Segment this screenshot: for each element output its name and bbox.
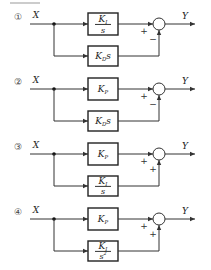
top-block: KIs: [88, 13, 118, 35]
block-diagram-options: ①XKIsKDsY+−②XKPKDsY+−③XKPKIsY++④XKPKIs2Y…: [0, 0, 211, 270]
input-label-x: X: [32, 75, 40, 85]
top-input-sign: +: [140, 26, 148, 36]
bottom-input-sign: −: [149, 99, 157, 109]
branch-signal-line: [54, 89, 88, 121]
output-label-y: Y: [182, 206, 189, 216]
bottom-block: KIs: [88, 176, 118, 196]
bottom-input-sign: +: [149, 229, 157, 239]
summing-junction: [153, 83, 165, 95]
diagram-option-4: ④XKPKIs2Y++: [14, 205, 195, 261]
top-block: KP: [88, 78, 118, 100]
bottom-block: KDs: [88, 111, 118, 131]
bottom-block-denominator: s: [101, 187, 105, 196]
bottom-block: KDs: [88, 46, 118, 66]
bottom-input-sign: −: [149, 34, 157, 44]
option-number: ④: [14, 207, 22, 217]
option-number: ③: [14, 142, 22, 152]
top-block: KP: [88, 143, 118, 165]
output-label-y: Y: [182, 11, 189, 21]
summing-junction: [153, 213, 165, 225]
branch-signal-line: [54, 24, 88, 56]
top-input-sign: +: [140, 91, 148, 101]
diagram-option-2: ②XKPKDsY+−: [14, 75, 195, 131]
summing-junction: [153, 18, 165, 30]
output-label-y: Y: [182, 76, 189, 86]
top-block: KP: [88, 208, 118, 230]
option-number: ②: [14, 77, 22, 87]
top-block-denominator: s: [101, 26, 105, 35]
branch-signal-line: [54, 154, 88, 186]
summing-junction: [153, 148, 165, 160]
branch-signal-line: [54, 219, 88, 251]
top-input-sign: +: [140, 156, 148, 166]
input-label-x: X: [32, 140, 40, 150]
bottom-block: KIs2: [88, 241, 118, 261]
diagram-option-3: ③XKPKIsY++: [14, 140, 195, 196]
output-label-y: Y: [182, 141, 189, 151]
bottom-input-sign: +: [149, 164, 157, 174]
top-input-sign: +: [140, 221, 148, 231]
input-label-x: X: [32, 205, 40, 215]
diagram-option-1: ①XKIsKDsY+−: [14, 10, 195, 66]
option-number: ①: [14, 12, 22, 22]
input-label-x: X: [32, 10, 40, 20]
